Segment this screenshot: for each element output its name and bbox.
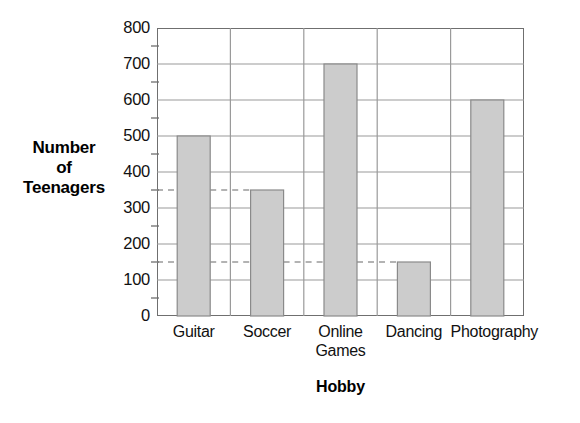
bar-chart: Number of Teenagers 01002003004005006007… [0, 0, 580, 423]
y-axis-ticks [145, 28, 159, 316]
y-tick-label: 200 [104, 235, 150, 252]
x-category-label-line: Soccer [230, 322, 303, 341]
x-category-label-online-games: OnlineGames [304, 322, 377, 360]
x-category-label-line: Photography [451, 322, 524, 341]
bar-online-games [324, 64, 357, 316]
y-tick-label: 100 [104, 271, 150, 288]
plot-graphics [157, 28, 524, 316]
bar-photography [471, 100, 504, 316]
x-category-label-photography: Photography [451, 322, 524, 341]
x-category-label-dancing: Dancing [377, 322, 450, 341]
bar-guitar [177, 136, 210, 316]
y-tick-label: 400 [104, 163, 150, 180]
x-category-label-line: Online [304, 322, 377, 341]
x-axis-title: Hobby [157, 378, 524, 396]
x-category-label-line: Games [304, 341, 377, 360]
bar-soccer [251, 190, 284, 316]
x-category-label-soccer: Soccer [230, 322, 303, 341]
bar-dancing [397, 262, 430, 316]
y-tick-label: 600 [104, 91, 150, 108]
y-tick-label: 500 [104, 127, 150, 144]
y-axis-tick-labels: 0100200300400500600700800 [98, 0, 150, 423]
y-tick-label: 300 [104, 199, 150, 216]
y-tick-marks-group [151, 46, 159, 298]
x-category-label-line: Guitar [157, 322, 230, 341]
x-category-label-guitar: Guitar [157, 322, 230, 341]
x-axis-category-labels: GuitarSoccerOnlineGamesDancingPhotograph… [157, 322, 524, 368]
x-category-label-line: Dancing [377, 322, 450, 341]
y-tick-label: 700 [104, 55, 150, 72]
y-tick-label: 800 [104, 19, 150, 36]
y-tick-label: 0 [104, 307, 150, 324]
